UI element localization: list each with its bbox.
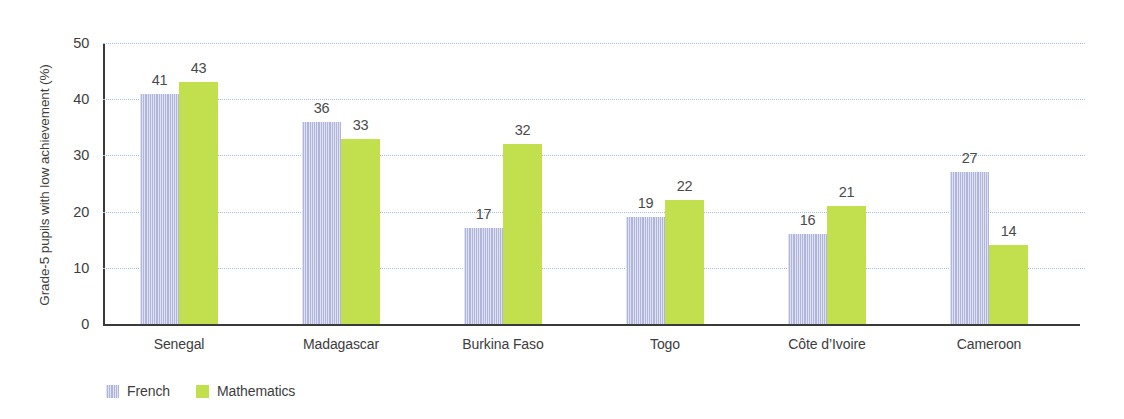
y-tick-label-30: 30 (49, 148, 89, 163)
bar-value-label: 32 (515, 123, 531, 138)
gridline-40 (103, 99, 1085, 100)
bar-french[interactable]: 16 (788, 234, 827, 324)
y-tick-label-50: 50 (49, 36, 89, 51)
bar-group: 3633 (302, 43, 380, 324)
bar-mathematics[interactable]: 14 (989, 245, 1028, 324)
french-color-swatch (106, 385, 119, 398)
bar-group: 4143 (140, 43, 218, 324)
bar-value-label: 36 (314, 101, 330, 116)
grouped-bar-chart: Grade-5 pupils with low achievement (%) … (0, 0, 1124, 419)
legend-item-french[interactable]: French (106, 383, 170, 399)
bar-french[interactable]: 41 (140, 94, 179, 324)
x-axis-line (103, 324, 1080, 326)
bar-french[interactable]: 27 (950, 172, 989, 324)
bar-mathematics[interactable]: 43 (179, 82, 218, 324)
y-axis-title: Grade-5 pupils with low achievement (%) (34, 40, 56, 330)
bar-value-label: 16 (800, 213, 816, 228)
y-tick-label-20: 20 (49, 205, 89, 220)
bar-value-label: 21 (839, 185, 855, 200)
bar-group: 2714 (950, 43, 1028, 324)
bar-value-label: 19 (638, 196, 654, 211)
x-axis-label: Côte d’Ivoire (737, 336, 917, 353)
x-axis-label: Burkina Faso (413, 336, 593, 353)
bar-mathematics[interactable]: 32 (503, 144, 542, 324)
gridline-50 (103, 43, 1085, 44)
x-axis-label: Madagascar (251, 336, 431, 353)
x-axis-label: Cameroon (899, 336, 1079, 353)
bar-group: 1621 (788, 43, 866, 324)
bar-mathematics[interactable]: 22 (665, 200, 704, 324)
bar-french[interactable]: 36 (302, 122, 341, 324)
bar-group: 1732 (464, 43, 542, 324)
bar-mathematics[interactable]: 33 (341, 139, 380, 324)
x-axis-label: Senegal (89, 336, 269, 353)
bar-value-label: 17 (476, 207, 492, 222)
bar-value-label: 14 (1001, 224, 1017, 239)
bar-group: 1922 (626, 43, 704, 324)
chart-legend: French Mathematics (106, 383, 295, 399)
bar-french[interactable]: 19 (626, 217, 665, 324)
bar-french[interactable]: 17 (464, 228, 503, 324)
gridline-30 (103, 155, 1085, 156)
bar-value-label: 41 (152, 73, 168, 88)
gridline-20 (103, 212, 1085, 213)
bar-value-label: 27 (962, 151, 978, 166)
legend-label-french: French (127, 383, 170, 399)
legend-label-mathematics: Mathematics (217, 383, 295, 399)
bar-value-label: 33 (353, 118, 369, 133)
plot-area: 414336331732192216212714 (103, 43, 1085, 324)
bar-mathematics[interactable]: 21 (827, 206, 866, 324)
x-axis-label: Togo (575, 336, 755, 353)
y-tick-label-40: 40 (49, 92, 89, 107)
bar-value-label: 22 (677, 179, 693, 194)
bar-value-label: 43 (191, 61, 207, 76)
y-tick-label-0: 0 (49, 317, 89, 332)
gridline-10 (103, 268, 1085, 269)
y-tick-label-10: 10 (49, 261, 89, 276)
legend-item-mathematics[interactable]: Mathematics (196, 383, 295, 399)
mathematics-color-swatch (196, 385, 209, 398)
